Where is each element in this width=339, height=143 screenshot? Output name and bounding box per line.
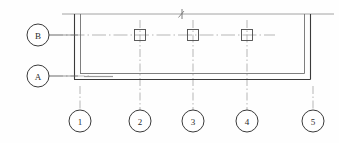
grid-bubble-3-label: 3	[191, 117, 196, 127]
plan-canvas: B A 1 2 3	[0, 0, 339, 143]
grid-bubble-1[interactable]: 1	[69, 110, 91, 132]
grid-bubble-5-label: 5	[311, 117, 316, 127]
floor-plan-drawing: B A 1 2 3	[0, 0, 339, 143]
axis-bubbles-vertical: 1 2 3 4 5	[69, 110, 324, 132]
gridlines	[49, 20, 313, 110]
building-walls	[62, 14, 334, 80]
grid-bubble-2[interactable]: 2	[129, 110, 151, 132]
grid-bubble-5[interactable]: 5	[302, 110, 324, 132]
grid-bubble-3[interactable]: 3	[182, 110, 204, 132]
axis-bubbles-horizontal: B A	[27, 24, 78, 87]
grid-bubble-1-label: 1	[78, 117, 83, 127]
grid-bubble-B-label: B	[35, 31, 41, 41]
grid-bubble-4[interactable]: 4	[236, 110, 258, 132]
grid-bubble-A-label: A	[35, 72, 42, 82]
grid-bubble-A[interactable]: A	[27, 65, 78, 87]
grid-bubble-4-label: 4	[245, 117, 250, 127]
grid-bubble-2-label: 2	[138, 117, 143, 127]
grid-bubble-B[interactable]: B	[27, 24, 78, 46]
